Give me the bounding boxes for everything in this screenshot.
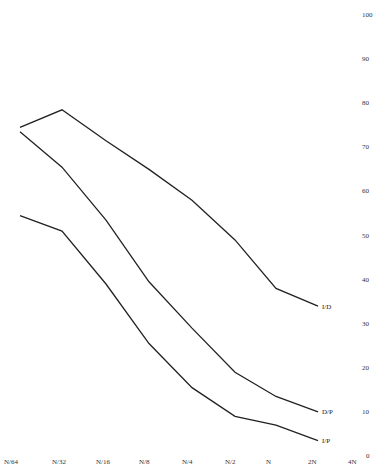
y-tick-label: 70 <box>362 143 370 151</box>
y-tick-label: 80 <box>362 99 370 107</box>
y-tick-label: 100 <box>362 11 373 19</box>
x-tick-label: 2N <box>308 458 317 466</box>
y-tick-label: 20 <box>362 364 370 372</box>
x-tick-label: N/32 <box>52 458 67 466</box>
series-line-i-p <box>20 216 318 441</box>
x-tick-label: N/8 <box>139 458 150 466</box>
y-tick-label: 30 <box>362 320 370 328</box>
x-tick-label: N/2 <box>225 458 236 466</box>
series-labels: I/DD/PI/P <box>322 303 333 446</box>
y-tick-label: 90 <box>362 55 370 63</box>
series-line-d-p <box>20 132 318 412</box>
x-tick-label: N/64 <box>4 458 19 466</box>
x-tick-label: N/4 <box>182 458 193 466</box>
series-label: D/P <box>322 408 333 416</box>
series-label: I/D <box>322 303 331 311</box>
y-tick-label: 60 <box>362 187 370 195</box>
y-tick-label: 10 <box>362 408 370 416</box>
x-tick-label: N <box>266 458 271 466</box>
x-tick-label: 4N <box>348 458 357 466</box>
line-chart: 1020304050607080901000 N/64N/32N/16N/8N/… <box>0 0 387 475</box>
y-tick-label: 40 <box>362 276 370 284</box>
y-tick-label: 0 <box>366 452 370 460</box>
series-label: I/P <box>322 437 330 445</box>
x-axis-tick-labels: N/64N/32N/16N/8N/4N/2N2N4N <box>4 458 357 466</box>
y-tick-label: 50 <box>362 232 370 240</box>
x-tick-label: N/16 <box>96 458 111 466</box>
series-lines <box>20 110 318 441</box>
y-axis-tick-labels: 1020304050607080901000 <box>362 11 373 460</box>
series-line-i-d <box>20 110 318 306</box>
